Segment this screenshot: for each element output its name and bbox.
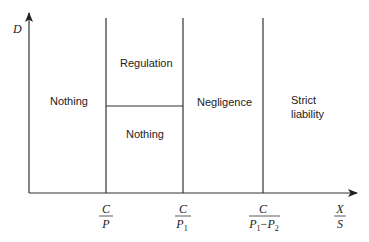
region-strict-liability-line2: liability [291,108,325,120]
svg-text:C: C [179,202,188,216]
svg-text:P1: P1 [175,217,187,233]
svg-text:S: S [337,217,343,231]
region-negligence: Negligence [197,96,252,108]
x-tick-c-over-p1: C P1 [175,202,191,233]
svg-text:X: X [335,202,344,216]
region-regulation: Regulation [120,57,173,69]
region-nothing-middle: Nothing [126,128,164,140]
y-axis-label: D [12,22,22,36]
svg-text:P1−P2: P1−P2 [248,217,278,233]
region-strict-liability-line1: Strict [291,94,316,106]
svg-text:P: P [101,217,110,231]
svg-text:C: C [102,202,111,216]
x-axis-label: X S [334,202,346,231]
regulation-liability-diagram: D Nothing Regulation Nothing Negligence … [0,0,369,242]
svg-text:C: C [259,202,268,216]
region-nothing-left: Nothing [50,95,88,107]
x-tick-c-over-p: C P [99,202,113,231]
x-tick-c-over-p1-minus-p2: C P1−P2 [248,202,280,233]
